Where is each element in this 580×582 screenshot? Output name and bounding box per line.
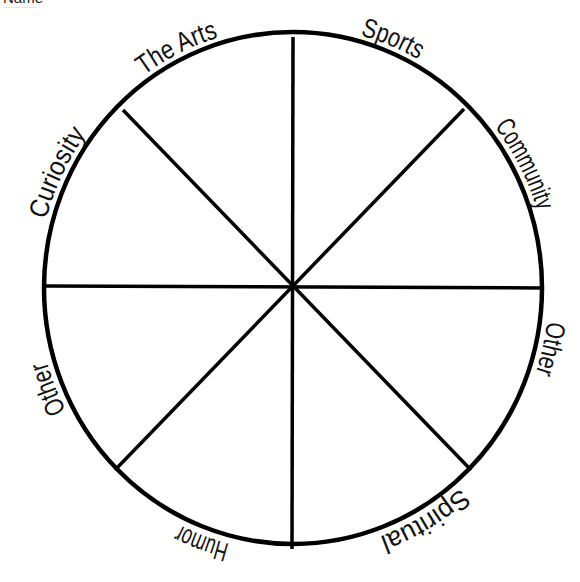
wheel-label-other: Other [530, 320, 571, 380]
spoke-diagonal-2 [115, 109, 464, 470]
wheel-label-sports: Sports [359, 12, 430, 65]
wheel-label-the-arts: The Arts [130, 15, 220, 81]
wheel-diagram: The ArtsSportsCommunityOtherSpiritualHum… [0, 0, 580, 582]
spoke-diagonal-1 [123, 110, 471, 470]
spoke-vertical [292, 37, 293, 549]
